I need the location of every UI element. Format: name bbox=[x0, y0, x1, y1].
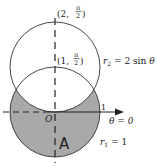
region-a-label: A bbox=[59, 135, 70, 153]
polar-diagram: (2, π 2 ) (1, π 2 ) r2 = 2 sin θ O 1 θ =… bbox=[0, 0, 157, 167]
point-top-den: 2 bbox=[76, 12, 80, 20]
point-mid-den: 2 bbox=[74, 59, 78, 67]
point-mid-label: (1, bbox=[57, 56, 69, 66]
tick-label-1: 1 bbox=[101, 103, 106, 112]
svg-text:): ) bbox=[80, 56, 84, 66]
curve-r2-label: r2 = 2 sin θ bbox=[103, 56, 155, 67]
point-top-label: (2, bbox=[57, 9, 69, 19]
curve-r1-label: r1 = 1 bbox=[100, 137, 127, 148]
arrow-head-icon bbox=[115, 109, 124, 116]
point-mid-pi: π bbox=[74, 51, 79, 59]
axis-theta-label: θ = 0 bbox=[109, 116, 134, 126]
point-top-pi: π bbox=[76, 4, 81, 12]
origin-label: O bbox=[45, 114, 53, 124]
svg-text:): ) bbox=[82, 9, 86, 19]
